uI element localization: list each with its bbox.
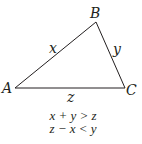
triangle bbox=[15, 22, 125, 88]
vertex-label-c: C bbox=[126, 82, 137, 98]
side-label-z: z bbox=[66, 89, 75, 105]
vertex-label-a: A bbox=[0, 80, 12, 96]
vertex-label-b: B bbox=[89, 5, 100, 21]
side-label-y: y bbox=[112, 41, 122, 57]
inequality-2: z − x < y bbox=[48, 121, 96, 136]
side-label-x: x bbox=[49, 40, 57, 56]
triangle-diagram: A B C x y z x + y > z z − x < y bbox=[0, 0, 142, 144]
